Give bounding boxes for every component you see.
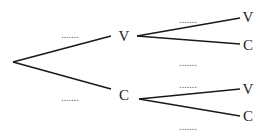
leaf-V-V: V bbox=[243, 10, 254, 25]
prob-C-V: ....... bbox=[179, 80, 197, 90]
leaf-V-C: C bbox=[243, 38, 253, 53]
leaf-C-V: V bbox=[243, 82, 254, 97]
prob-root-V: ....... bbox=[61, 30, 79, 40]
node-V: V bbox=[119, 29, 130, 44]
node-C: C bbox=[119, 88, 129, 103]
prob-V-V: ....... bbox=[179, 15, 197, 25]
leaf-C-C: C bbox=[243, 109, 253, 124]
branch-root-to-C bbox=[13, 62, 111, 89]
branch-V-to-C bbox=[137, 36, 240, 44]
prob-V-C: ....... bbox=[179, 58, 197, 68]
branch-C-to-C bbox=[139, 99, 240, 116]
branch-C-to-V bbox=[139, 89, 240, 99]
tree-branches bbox=[0, 0, 265, 140]
prob-root-C: ....... bbox=[61, 93, 79, 103]
prob-C-C: ....... bbox=[179, 122, 197, 132]
